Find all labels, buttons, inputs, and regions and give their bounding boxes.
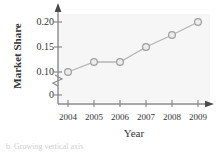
data-line	[68, 22, 198, 72]
chart-svg	[0, 0, 222, 152]
data-point-marker	[169, 32, 176, 39]
data-point-marker	[91, 59, 98, 66]
y-axis-arrow-icon	[55, 3, 62, 12]
data-point-marker	[117, 59, 124, 66]
data-point-marker	[65, 69, 72, 76]
x-axis-arrow-icon	[205, 101, 214, 107]
data-point-marker	[143, 44, 150, 51]
data-point-marker	[195, 19, 202, 26]
chart-screenshot: Market Share 0.20 0.15 0.10 0 2004 2005 …	[0, 0, 222, 152]
